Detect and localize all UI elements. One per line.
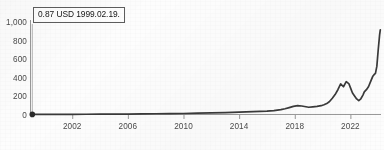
y-axis-tick-label: 0: [0, 110, 27, 119]
price-line: [32, 30, 380, 115]
x-axis-tick-label: 2022: [341, 122, 360, 131]
stock-price-chart: 02004006008001,000 200220062010201420182…: [0, 0, 384, 150]
y-axis-tick-label: 600: [0, 55, 27, 64]
value-tooltip: 0.87 USD 1999.02.19.: [33, 7, 125, 23]
x-axis-tick-label: 2002: [63, 122, 82, 131]
x-axis-tick-label: 2018: [285, 122, 304, 131]
y-axis-tick-label: 1,000: [0, 18, 27, 27]
highlighted-point-marker[interactable]: [30, 112, 36, 118]
y-axis-tick-label: 200: [0, 92, 27, 101]
x-axis-tick-label: 2006: [119, 122, 138, 131]
x-axis-ticks: [73, 115, 351, 120]
x-axis-tick-label: 2014: [230, 122, 249, 131]
y-axis-tick-label: 800: [0, 36, 27, 45]
y-axis-tick-label: 400: [0, 73, 27, 82]
x-axis-tick-label: 2010: [174, 122, 193, 131]
